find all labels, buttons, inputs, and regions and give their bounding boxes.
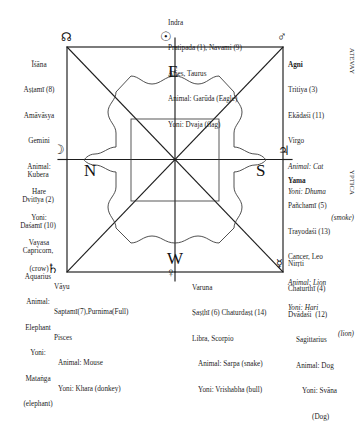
edge-text-lower: YPTICA — [349, 170, 356, 195]
agni-tithis: Tritiya (3) — [288, 86, 354, 94]
kubera-deity: Kubera — [4, 171, 72, 179]
annotation-nirrti: Nirṛti Chaturthī (4) Dvādaśi (12) Sagitt… — [288, 243, 354, 425]
indra-tithis: Pratipada (1), Navami (9) — [168, 44, 242, 52]
direction-label-north: N — [84, 161, 96, 181]
varuna-yoni: Yoni: Vrishabha (bull) — [192, 386, 266, 394]
mars-symbol-icon: ♂ — [277, 30, 287, 43]
indra-animal: Animal: Garūda (Eagle) — [168, 95, 242, 103]
vayu-signs: Pisces — [54, 334, 128, 342]
agni-deity: Agni — [288, 61, 354, 69]
vayu-tithis: Saptamī(7),Purnima(Full) — [54, 308, 128, 316]
kubera-tithis-2: Daśamī (10) — [4, 222, 72, 230]
agni-tithis-2: Ekādaśi (11) — [288, 112, 354, 120]
nirrti-animal: Animal: Dog — [288, 362, 354, 370]
kubera-tithis: Dvitīya (2) — [4, 196, 72, 204]
annotation-indra: Indra Pratipada (1), Navami (9) Aries, T… — [168, 2, 242, 146]
yama-tithis: Pañchamī (5) — [288, 202, 354, 210]
varuna-signs: Libra, Scorpio — [192, 335, 266, 343]
direction-label-west: W — [167, 249, 183, 269]
varuna-tithis: Ṣaṣṭhī (6) Chaturdaṣṭ (14) — [192, 309, 266, 317]
vayu-animal: Animal: Mouse — [54, 359, 128, 367]
kubera-signs: Capricorn, — [4, 247, 72, 255]
nirrti-deity: Nirṛti — [288, 260, 354, 268]
annotation-varuna: Varuna Ṣaṣṭhī (6) Chaturdaṣṭ (14) Libra,… — [192, 267, 266, 411]
nirrti-tithis-2: Dvādaśi (12) — [288, 311, 354, 319]
isana-deity: Īśāna — [6, 61, 72, 69]
indra-signs: Aries, Taurus — [168, 70, 242, 78]
yama-tithis-2: Trayodaśi (13) — [288, 228, 354, 236]
vayu-yoni: Yoni: Khara (donkey) — [54, 385, 128, 393]
edge-text-upper: ATEVAY — [349, 48, 356, 74]
yama-deity: Yama — [288, 177, 354, 185]
vayu-deity: Vāyu — [54, 283, 128, 291]
nirrti-tithis: Chaturthī (4) — [288, 285, 354, 293]
mercury-symbol-icon: ☿ — [276, 258, 283, 269]
nirrti-signs: Sagittarius — [288, 336, 354, 344]
varuna-deity: Varuna — [192, 284, 266, 292]
indra-deity: Indra — [168, 19, 242, 27]
rahu-symbol-icon: ☊ — [61, 31, 72, 43]
annotation-vayu: Vāyu Saptamī(7),Purnima(Full) Pisces Ani… — [54, 266, 128, 410]
nirrti-yoni-2: (Dog) — [288, 413, 354, 421]
agni-signs: Virgo — [288, 137, 354, 145]
indra-yoni: Yoni: Dvaja (flag) — [168, 121, 242, 129]
varuna-animal: Animal: Sarpa (snake) — [192, 360, 266, 368]
direction-label-south: S — [256, 161, 265, 181]
isana-signs: Gemini — [6, 137, 72, 145]
nirrti-yoni: Yoni: Svāna — [288, 387, 354, 395]
isana-tithis-2: Amāvāsya — [6, 112, 72, 120]
isana-tithis: Aṣṭamī (8) — [6, 86, 72, 94]
